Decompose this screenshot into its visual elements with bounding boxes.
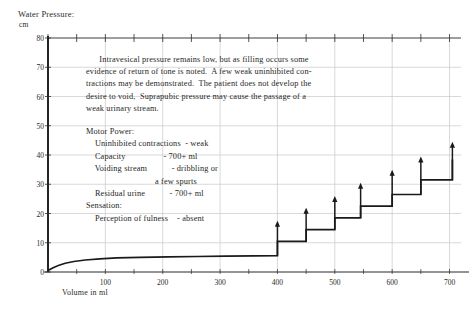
contraction-arrow-head-3 [332,196,337,202]
findings-list: Motor Power: Uninhibited contractions - … [86,126,218,225]
contraction-arrow-head-4 [358,183,363,189]
cystometrogram-figure: Water Pressure: cm Volume in ml 01020304… [0,0,474,314]
contraction-arrow-head-6 [418,156,423,162]
contraction-arrow-head-7 [450,142,455,148]
pressure-volume-plot [0,0,474,314]
interpretation-paragraph: Intravesical pressure remains low, but a… [86,54,312,115]
contraction-arrow-head-2 [304,208,309,214]
contraction-arrow-head-1 [275,221,280,227]
contraction-arrow-head-5 [390,170,395,176]
